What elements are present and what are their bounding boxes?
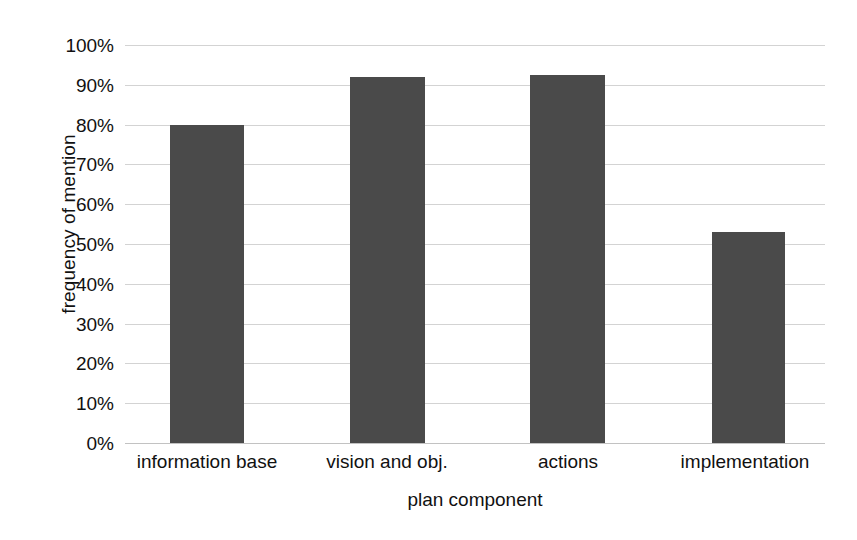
y-tick-label: 100% (4, 36, 114, 55)
y-tick-label: 20% (4, 354, 114, 373)
y-tick-label: 80% (4, 116, 114, 135)
gridline (125, 45, 825, 46)
x-axis-category-labels: information base vision and obj. actions… (125, 452, 825, 482)
y-tick-label: 30% (4, 315, 114, 334)
y-tick-label: 90% (4, 76, 114, 95)
bar-implementation (712, 232, 785, 443)
x-axis-title: plan component (125, 489, 825, 511)
x-tick-label-actions: actions (468, 452, 668, 473)
y-tick-label: 40% (4, 275, 114, 294)
bar-chart: frequency of mention 100% 90% 80% 70% 60… (0, 0, 857, 540)
bar-vision-and-obj (350, 77, 425, 443)
x-axis-line (125, 443, 825, 444)
x-tick-label-information-base: information base (107, 452, 307, 473)
y-tick-label: 10% (4, 394, 114, 413)
y-axis-tick-labels: 100% 90% 80% 70% 60% 50% 40% 30% 20% 10%… (0, 45, 114, 443)
y-tick-label: 0% (4, 434, 114, 453)
x-tick-label-implementation: implementation (645, 452, 845, 473)
plot-area (125, 45, 825, 443)
y-tick-label: 70% (4, 155, 114, 174)
bar-actions (530, 75, 605, 443)
x-tick-label-vision-and-obj: vision and obj. (287, 452, 487, 473)
y-tick-label: 60% (4, 195, 114, 214)
y-tick-label: 50% (4, 235, 114, 254)
gridline (125, 85, 825, 86)
bar-information-base (170, 125, 244, 443)
